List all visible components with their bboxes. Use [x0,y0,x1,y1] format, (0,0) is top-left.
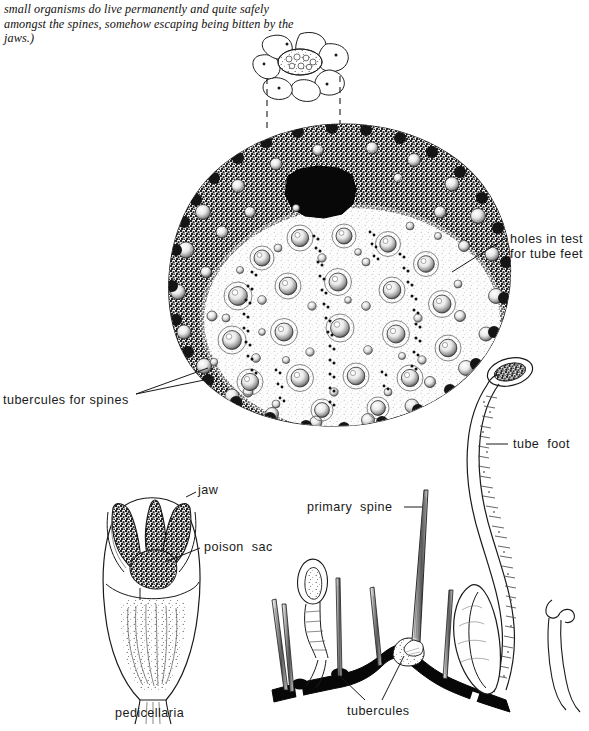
label-tubercules-for-spines: tubercules for spines [3,393,129,408]
label-tubercules: tubercules [347,704,410,719]
primary-spine [404,490,428,656]
sea-urchin-test [163,120,517,436]
section-sac-appendage [454,585,501,694]
test-wall-cross-section [272,490,510,712]
secondary-tube-foot [546,600,580,712]
apical-plate-inset [253,32,348,132]
pedicellaria-drawing [103,498,200,724]
label-jaw: jaw [198,483,218,498]
label-poison-sac: poison sac [204,540,273,555]
illustration-page: small organisms do live permanently and … [0,0,589,731]
label-primary-spine: primary spine [307,500,392,515]
leader-jaw [186,492,196,497]
sea-urchin-illustration [0,0,589,731]
section-pedicellaria [298,559,329,688]
label-tube-foot: tube foot [513,437,570,452]
label-holes-in-test: holes in test for tube feet [510,232,583,263]
label-pedicellaria: pedicellaria [115,706,184,721]
